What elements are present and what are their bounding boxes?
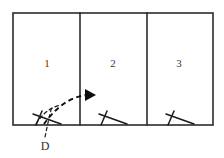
swing-direction-arrow-head bbox=[85, 89, 96, 101]
door-symbol-room-3 bbox=[166, 111, 194, 125]
door-3-hinge-tick bbox=[168, 111, 174, 125]
door-2-hinge-tick bbox=[101, 111, 107, 125]
outer-wall bbox=[13, 13, 213, 125]
room-label-2: 2 bbox=[110, 57, 116, 69]
diagram-canvas: 1 2 3 D bbox=[0, 0, 224, 158]
door-label-d: D bbox=[41, 139, 50, 153]
swing-direction-arrow bbox=[44, 89, 96, 124]
floor-plan-svg: 1 2 3 D bbox=[0, 0, 224, 158]
room-label-1: 1 bbox=[44, 57, 50, 69]
door-symbol-room-1 bbox=[33, 105, 61, 125]
room-label-3: 3 bbox=[176, 57, 182, 69]
door-symbol-room-2 bbox=[99, 111, 127, 125]
